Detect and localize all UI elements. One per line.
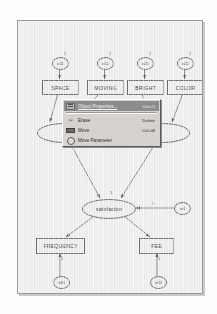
- param-e21: 1: [149, 51, 151, 56]
- object-context-menu[interactable]: Object Properties... Ctrl+O ✂ Erase Dele…: [62, 99, 161, 147]
- error-e11[interactable]: e11: [52, 57, 69, 70]
- error-e21[interactable]: e21: [137, 57, 154, 70]
- param-e12: 1: [109, 51, 111, 56]
- error-e4[interactable]: e4: [174, 202, 191, 215]
- error-e12[interactable]: e12: [97, 57, 114, 70]
- parameter-icon: [66, 138, 75, 144]
- properties-icon: [66, 104, 75, 110]
- menu-item-label: Object Properties...: [78, 104, 117, 109]
- menu-separator: [66, 112, 157, 114]
- latent-satisfaction[interactable]: satisfaction: [82, 199, 136, 219]
- menu-item-object-properties[interactable]: Object Properties... Ctrl+O: [64, 101, 159, 111]
- move-icon: [66, 128, 75, 134]
- observed-color[interactable]: COLOR: [167, 80, 203, 95]
- error-e22[interactable]: e22: [177, 57, 194, 70]
- menu-item-accel: Ctrl+O: [142, 104, 155, 109]
- document-canvas-panel[interactable]: SPACE MOVING BRIGHT COLOR FREQUENCY FEE …: [17, 20, 203, 294]
- param-e11: 1: [64, 51, 66, 56]
- menu-item-accel: Ctrl+M: [142, 128, 155, 133]
- param-satisfaction: 1: [110, 190, 112, 195]
- param-e22: 1: [189, 51, 191, 56]
- observed-space[interactable]: SPACE: [42, 80, 79, 95]
- menu-item-move-parameter[interactable]: Move Parameter: [64, 135, 159, 145]
- error-e31[interactable]: e31: [53, 276, 70, 289]
- menu-item-move[interactable]: Move Ctrl+M: [64, 125, 159, 135]
- scissors-icon: ✂: [66, 118, 75, 124]
- menu-item-label: Erase: [78, 118, 90, 123]
- menu-item-erase[interactable]: ✂ Erase Delete: [64, 115, 159, 125]
- menu-item-label: Move: [78, 128, 89, 133]
- observed-moving[interactable]: MOVING: [87, 80, 124, 95]
- screenshot-root: SPACE MOVING BRIGHT COLOR FREQUENCY FEE …: [0, 0, 217, 314]
- observed-frequency[interactable]: FREQUENCY: [36, 238, 85, 254]
- param-e31: 1: [61, 256, 63, 261]
- menu-item-label: Move Parameter: [78, 138, 112, 143]
- path-diagram-stage[interactable]: SPACE MOVING BRIGHT COLOR FREQUENCY FEE …: [20, 23, 203, 294]
- param-e4: 1: [152, 201, 154, 206]
- error-e32[interactable]: e32: [150, 276, 167, 289]
- param-e32: 1: [158, 256, 160, 261]
- menu-item-accel: Delete: [142, 118, 155, 123]
- canvas-surface[interactable]: SPACE MOVING BRIGHT COLOR FREQUENCY FEE …: [20, 23, 200, 291]
- observed-fee[interactable]: FEE: [139, 238, 174, 254]
- observed-bright[interactable]: BRIGHT: [127, 80, 164, 95]
